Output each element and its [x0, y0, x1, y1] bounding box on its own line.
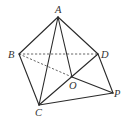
label-O: O — [69, 80, 77, 91]
edge-BC — [19, 54, 39, 105]
label-P: P — [113, 88, 121, 99]
geometry-diagram: A B C D O P — [0, 0, 129, 118]
edge-OP — [72, 77, 113, 93]
edge-AB — [19, 17, 58, 54]
label-D: D — [100, 49, 109, 60]
edge-AD — [58, 17, 98, 54]
label-C: C — [35, 107, 43, 118]
edge-AC — [39, 17, 58, 105]
label-A: A — [54, 4, 62, 15]
edge-AO — [58, 17, 72, 77]
label-B: B — [8, 49, 15, 60]
